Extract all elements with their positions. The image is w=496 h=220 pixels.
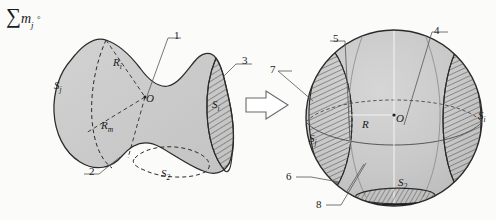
transformation-arrow-group [246,91,288,119]
left-label-Ri: Ri [113,57,122,71]
left-Rm-sub: m [108,125,113,134]
right-label-4: 4 [434,25,440,36]
right-sphere-group [278,28,482,206]
figure-canvas [0,0,496,220]
left-S2-sub: 2 [167,173,171,182]
sum-formula: ∑mj◦ [6,6,41,30]
left-label-Si: Si [212,99,220,113]
summation-symbol: ∑ [6,4,21,28]
left-Sj-sub: j [60,85,62,94]
right-S2-sub: 2 [404,182,408,191]
right-label-7: 7 [270,64,276,75]
left-Ri-base: R [113,56,120,68]
mass-variable: m [21,11,31,26]
right-O-base: O [396,112,404,124]
right-R-base: R [362,118,369,130]
left-label-2: 2 [89,166,95,177]
left-label-Rm: Rm [101,120,113,134]
right-label-R: R [362,119,369,130]
mass-subscript: j [31,20,34,30]
right-label-5: 5 [333,33,339,44]
right-label-S2: S2 [398,177,407,191]
left-Ri-sub: i [120,62,122,71]
left-body-group [54,38,252,177]
left-label-1: 1 [174,30,180,41]
right-label-O: O [396,113,404,124]
left-label-3: 3 [242,55,248,66]
transformation-arrow [246,91,288,119]
right-Si-sub: i [484,115,486,124]
formula-terminator: ◦ [37,11,41,23]
right-label-Sj: Sj [309,133,317,147]
left-Si-sub: i [218,104,220,113]
left-label-Sj: Sj [54,80,62,94]
right-Sj-sub: j [315,138,317,147]
right-leader-7 [278,71,313,101]
right-label-8: 8 [316,199,322,210]
left-Rm-base: R [101,119,108,131]
right-label-6: 6 [286,171,292,182]
left-label-S2: S2 [161,168,170,182]
figure-container: ∑mj◦ 1 2 3 Sj Ri Rm O Si S2 4 5 6 7 8 Sj… [0,0,496,220]
right-label-Si: Si [478,110,486,124]
left-label-O: O [146,93,154,104]
left-O-base: O [146,92,154,104]
